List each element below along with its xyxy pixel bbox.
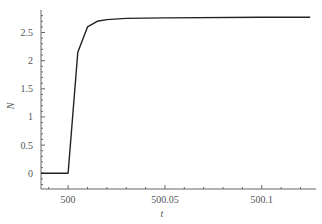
- y-tick-label: 0.5: [21, 140, 34, 151]
- y-tick-label: 2: [28, 55, 33, 66]
- chart: 500500.05500.100.511.522.5 t N: [0, 0, 322, 224]
- axes: 500500.05500.100.511.522.5: [21, 10, 317, 205]
- y-tick-label: 1: [28, 111, 33, 122]
- x-tick-label: 500.1: [251, 194, 274, 205]
- x-tick-label: 500: [61, 194, 76, 205]
- y-tick-label: 2.5: [21, 27, 34, 38]
- y-tick-label: 0: [28, 168, 33, 179]
- x-tick-label: 500.05: [151, 194, 179, 205]
- y-tick-label: 1.5: [21, 83, 34, 94]
- series-line: [41, 17, 310, 173]
- x-axis-label: t: [161, 208, 164, 219]
- y-axis-label: N: [5, 101, 16, 110]
- series-group: [41, 17, 310, 173]
